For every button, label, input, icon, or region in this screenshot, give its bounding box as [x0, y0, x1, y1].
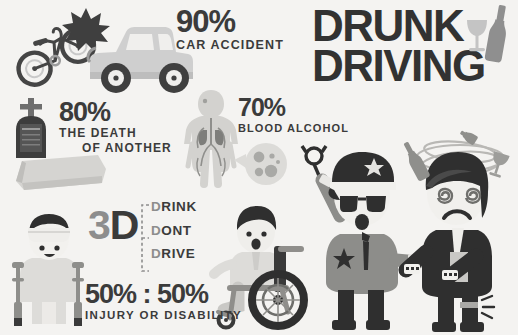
stat-death-label-line2: OF ANOTHER: [59, 142, 172, 156]
page-title: DRUNK DRIVING: [312, 6, 485, 87]
slogan-3d-number: 3: [88, 202, 110, 248]
slogan-items: DRINK DONT DRIVE: [151, 200, 197, 271]
floating-bottle-small-icon: [458, 127, 480, 145]
slogan-item-drink-lead: D: [151, 199, 161, 214]
stat-car-accident-label: CAR ACCIDENT: [176, 38, 284, 52]
stat-injury-disability-percent: 50% : 50%: [85, 281, 242, 308]
stat-blood-alcohol: 70% BLOOD ALCOHOL: [238, 95, 349, 135]
stat-injury-disability: 50% : 50% INJURY OR DISABILITY: [85, 281, 242, 322]
stat-blood-alcohol-percent: 70%: [238, 95, 349, 120]
stat-car-accident-percent: 90%: [176, 6, 284, 37]
slogan-bracket: [136, 203, 150, 273]
police-officer-illustration: [300, 138, 420, 334]
handcuffs-icon: [302, 146, 326, 178]
blood-cells-magnifier-icon: [232, 140, 290, 190]
page-title-line1: DRUNK: [312, 6, 485, 46]
floating-bottle-icon: [404, 140, 428, 182]
bottle-title-icon: [486, 5, 510, 63]
drunk-driving-infographic: 90% CAR ACCIDENT DRUNK DRIVING: [0, 0, 518, 335]
slogan-item-drink: DRINK: [151, 200, 197, 214]
slogan-item-dont-rest: ONT: [161, 223, 191, 238]
slogan-item-drink-rest: RINK: [161, 199, 196, 214]
slogan-3d-letter: D: [110, 202, 139, 248]
crutches-man-illustration: [10, 206, 88, 328]
floating-glass-icon: [488, 152, 508, 180]
slogan-3d: 3D: [88, 205, 138, 246]
stat-death-percent: 80%: [59, 99, 172, 126]
slogan-item-dont-lead: D: [151, 223, 161, 238]
slogan-item-dont: DONT: [151, 224, 197, 238]
slogan-item-drive-lead: D: [151, 246, 161, 261]
slogan-item-drive-rest: RIVE: [161, 246, 195, 261]
stat-death-of-another: 80% THE DEATH OF ANOTHER: [59, 99, 172, 156]
pain-spark-icon: [482, 296, 494, 318]
slogan-item-drive: DRIVE: [151, 247, 197, 261]
page-title-line2: DRIVING: [312, 46, 485, 86]
stat-blood-alcohol-label: BLOOD ALCOHOL: [238, 122, 349, 135]
stat-injury-disability-label: INJURY OR DISABILITY: [85, 309, 242, 322]
stat-death-label-line1: THE DEATH: [59, 127, 172, 141]
stat-car-accident: 90% CAR ACCIDENT: [176, 6, 284, 52]
